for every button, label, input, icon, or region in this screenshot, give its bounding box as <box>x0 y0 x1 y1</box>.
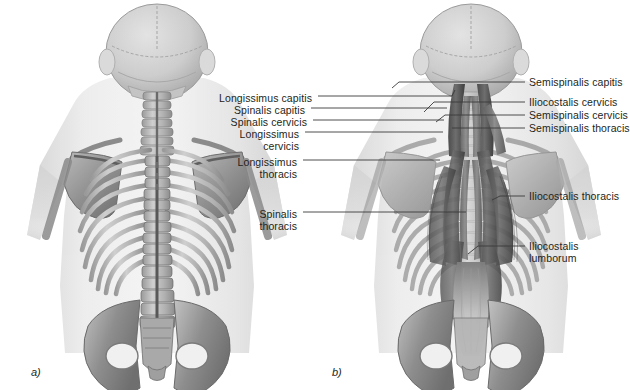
label-iliocostalis-cervicis: Iliocostalis cervicis <box>529 96 617 108</box>
leader-semispinalis-cervicis <box>436 115 525 122</box>
leader-iliocostalis-cervicis <box>424 102 525 112</box>
leader-iliocostalis-lumborum <box>468 246 525 254</box>
panel-caption-b: b) <box>332 366 342 378</box>
label-semispinalis-capitis: Semispinalis capitis <box>529 76 623 88</box>
label-spinalis-cervicis: Spinalis cervicis <box>231 116 307 128</box>
leader-longissimus-capitis <box>318 90 455 96</box>
label-longissimus-capitis: Longissimus capitis <box>219 92 312 104</box>
label-iliocostalis-lumborum: Iliocostalis lumborum <box>529 240 579 264</box>
leader-semispinalis-capitis <box>392 82 525 88</box>
label-spinalis-capitis: Spinalis capitis <box>234 104 305 116</box>
panel-caption-a: a) <box>31 366 41 378</box>
label-iliocostalis-thoracis: Iliocostalis thoracis <box>529 190 619 202</box>
leader-iliocostalis-thoracis <box>492 196 525 200</box>
label-longissimus-cervicis: Longissimus cervicis <box>240 128 299 152</box>
label-spinalis-thoracis: Spinalis thoracis <box>259 208 297 232</box>
label-semispinalis-thoracis: Semispinalis thoracis <box>529 122 630 134</box>
label-longissimus-thoracis: Longissimus thoracis <box>238 156 297 180</box>
label-semispinalis-cervicis: Semispinalis cervicis <box>529 109 628 121</box>
